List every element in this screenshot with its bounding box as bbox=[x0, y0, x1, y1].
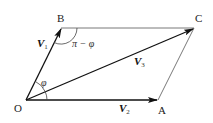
vector-v3-oc bbox=[26, 29, 193, 100]
point-label-b: B bbox=[57, 12, 64, 24]
angle-label-pi-minus-phi: π − φ bbox=[72, 38, 95, 49]
edge-ac bbox=[158, 28, 194, 100]
angle-arc-o-lower bbox=[45, 92, 47, 100]
vector-label-v1: V1 bbox=[37, 37, 48, 51]
point-label-c: C bbox=[195, 12, 202, 24]
point-label-a: A bbox=[158, 104, 166, 116]
vector-parallelogram-diagram: B C O A V1 V3 V2 φ π − φ bbox=[0, 0, 213, 123]
vector-label-v2: V2 bbox=[119, 102, 130, 116]
angle-label-phi: φ bbox=[41, 77, 47, 88]
vector-label-v3: V3 bbox=[134, 55, 145, 69]
point-label-o: O bbox=[14, 102, 22, 114]
